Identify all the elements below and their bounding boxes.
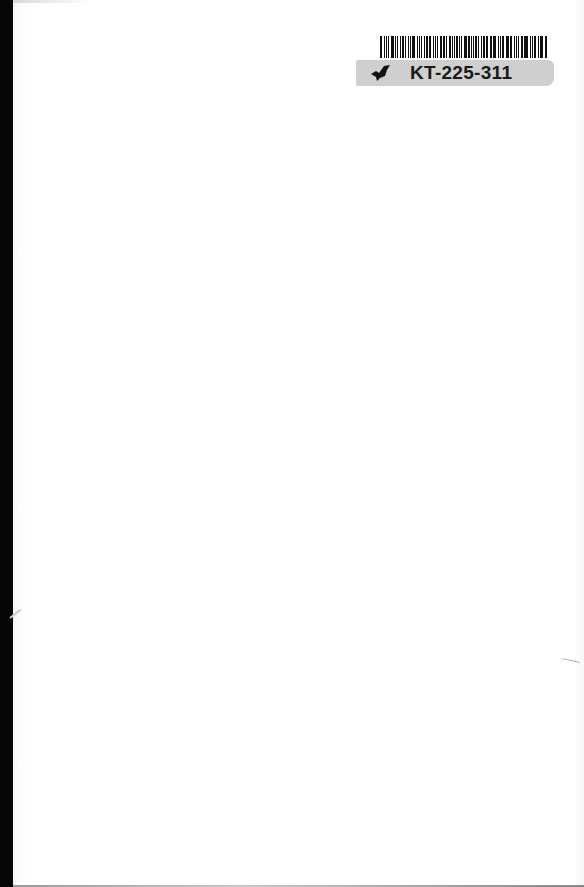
- book-spine-edge: [0, 0, 13, 887]
- label-strip: KT-225-311: [356, 60, 554, 86]
- barcode-number: KT-225-311: [410, 62, 512, 84]
- barcode-icon: [380, 36, 548, 58]
- bird-logo-icon: [370, 65, 392, 81]
- library-barcode-label: KT-225-311: [356, 36, 556, 88]
- blank-page: [13, 0, 584, 887]
- page-top-shadow: [13, 0, 93, 3]
